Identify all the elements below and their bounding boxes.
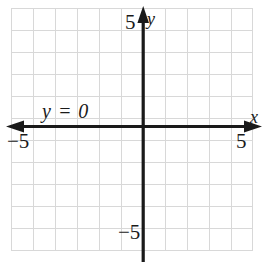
x-axis-line bbox=[6, 121, 262, 133]
y-axis-tick-label-5: 5 bbox=[125, 12, 136, 33]
coordinate-plane-figure: 5 −5 −5 5 y x y = 0 bbox=[0, 0, 264, 262]
x-axis-tick-label-negative-5: −5 bbox=[7, 131, 29, 152]
y-axis-tick-label-negative-5: −5 bbox=[118, 222, 140, 243]
x-axis-name-label: x bbox=[250, 108, 258, 126]
x-axis-tick-label-5: 5 bbox=[236, 131, 247, 152]
y-axis-name-label: y bbox=[147, 10, 155, 28]
line-equation-annotation: y = 0 bbox=[42, 101, 89, 121]
